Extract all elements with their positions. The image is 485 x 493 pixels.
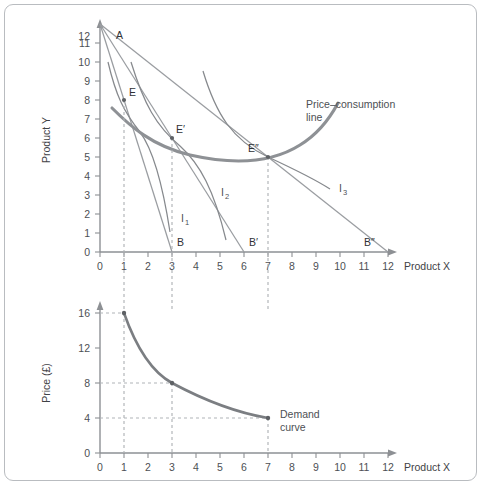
bottom-chart-y-axis-title: Price (£) <box>40 363 52 403</box>
x-tick-label: 11 <box>359 260 370 272</box>
demand-y-tick-label: 16 <box>78 307 90 319</box>
top-chart-group: 0 1 2 3 4 5 6 7 8 9 10 11 12 <box>40 19 450 272</box>
equilibrium-point-E-double-prime <box>266 155 270 159</box>
demand-x-tick-label: 6 <box>241 461 247 473</box>
bottom-chart-y-tick-labels: 0 4 8 12 16 <box>78 307 90 459</box>
demand-point-1-16 <box>122 311 126 315</box>
label-I3-subscript: 3 <box>343 188 347 197</box>
top-chart-x-tick-labels: 0 1 2 3 4 5 6 7 8 9 10 11 12 <box>97 260 394 272</box>
y-tick-label: 0 <box>84 246 90 258</box>
demand-y-tick-label: 4 <box>84 412 90 424</box>
demand-x-tick-label: 8 <box>289 461 295 473</box>
demand-curve-path <box>124 313 268 418</box>
x-tick-label: 4 <box>193 260 199 272</box>
y-tick-label: 5 <box>84 151 90 163</box>
demand-annotation-line1: Demand <box>280 408 320 420</box>
pcc-annotation-line1: Price–consumption <box>306 98 395 110</box>
top-chart-x-axis-title: Product X <box>404 260 450 272</box>
equilibrium-point-E <box>122 98 126 102</box>
label-I2-base: I <box>221 186 224 198</box>
demand-x-tick-label: 3 <box>169 461 175 473</box>
demand-y-axis-arrowhead <box>97 301 104 310</box>
top-chart-y-ticks <box>95 43 100 252</box>
bottom-chart-y-axis <box>97 301 104 453</box>
annotation-demand-curve: Demand curve <box>280 408 320 433</box>
equilibrium-point-E-prime <box>170 136 174 140</box>
demand-y-tick-label: 12 <box>78 342 90 354</box>
indifference-curve-I3 <box>203 71 330 189</box>
y-tick-label: 6 <box>84 132 90 144</box>
label-I2-subscript: 2 <box>225 192 229 201</box>
figure-root: 0 1 2 3 4 5 6 7 8 9 10 11 12 <box>0 0 485 493</box>
demand-x-tick-label: 9 <box>313 461 319 473</box>
x-tick-label: 12 <box>382 260 394 272</box>
bottom-chart-group: 0 4 8 12 16 <box>40 301 450 473</box>
demand-x-tick-label: 10 <box>334 461 346 473</box>
demand-x-tick-label: 11 <box>359 461 370 473</box>
demand-x-tick-label: 5 <box>217 461 223 473</box>
top-chart-y-tick-labels: 0 1 2 3 4 5 6 7 8 9 10 11 12 <box>78 30 90 258</box>
label-point-E-double-prime: E″ <box>248 142 259 154</box>
demand-annotation-line2: curve <box>280 421 306 433</box>
y-tick-label: 12 <box>78 30 90 42</box>
x-tick-label: 2 <box>145 260 151 272</box>
label-point-B-double-prime: B″ <box>364 236 375 248</box>
demand-point-7-4 <box>266 416 270 420</box>
budget-line-AB-double-prime <box>100 24 388 252</box>
label-point-B-prime: B′ <box>249 236 258 248</box>
top-chart-y-axis-title: Product Y <box>40 117 52 163</box>
demand-y-tick-label: 8 <box>84 377 90 389</box>
y-tick-label: 4 <box>84 170 90 182</box>
bottom-chart-x-axis <box>100 450 397 457</box>
bottom-chart-x-axis-title: Product X <box>404 461 450 473</box>
bottom-chart-x-ticks <box>100 453 388 458</box>
label-point-A: A <box>116 29 123 41</box>
x-tick-label: 8 <box>289 260 295 272</box>
demand-y-tick-label: 0 <box>84 447 90 459</box>
demand-x-tick-label: 1 <box>121 461 127 473</box>
demand-x-tick-label: 7 <box>265 461 271 473</box>
annotation-price-consumption-line: Price–consumption line <box>306 98 395 123</box>
bottom-chart-x-tick-labels: 0 1 2 3 4 5 6 7 8 9 10 11 12 <box>97 461 394 473</box>
label-I1-subscript: 1 <box>185 218 189 227</box>
top-chart-x-ticks <box>100 252 388 257</box>
label-point-B: B <box>177 236 184 248</box>
x-tick-label: 6 <box>241 260 247 272</box>
y-tick-label: 8 <box>84 94 90 106</box>
y-tick-label: 2 <box>84 208 90 220</box>
y-tick-label: 3 <box>84 189 90 201</box>
top-chart-x-axis <box>100 249 397 256</box>
y-tick-label: 10 <box>78 56 90 68</box>
budget-line-AB <box>100 24 172 252</box>
label-point-E-prime: E′ <box>176 123 185 135</box>
top-chart-y-axis <box>97 19 104 252</box>
demand-point-3-8 <box>170 381 174 385</box>
bottom-chart-y-ticks <box>95 313 100 453</box>
y-tick-label: 7 <box>84 113 90 125</box>
economics-figure: 0 1 2 3 4 5 6 7 8 9 10 11 12 <box>0 0 485 493</box>
x-tick-label: 10 <box>334 260 346 272</box>
label-curve-I1: I 1 <box>181 212 189 227</box>
x-tick-label: 9 <box>313 260 319 272</box>
demand-x-tick-label: 0 <box>97 461 103 473</box>
demand-x-tick-label: 12 <box>382 461 394 473</box>
x-tick-label: 5 <box>217 260 223 272</box>
label-I3-base: I <box>339 182 342 194</box>
price-consumption-line <box>112 103 338 161</box>
label-point-E: E <box>129 86 136 98</box>
label-curve-I3: I 3 <box>339 182 347 197</box>
x-tick-label: 0 <box>97 260 103 272</box>
demand-x-tick-label: 2 <box>145 461 151 473</box>
label-curve-I2: I 2 <box>221 186 229 201</box>
demand-x-tick-label: 4 <box>193 461 199 473</box>
y-tick-label: 9 <box>84 75 90 87</box>
y-tick-label: 1 <box>84 227 90 239</box>
pcc-annotation-line2: line <box>306 111 323 123</box>
x-axis-arrowhead <box>388 249 397 256</box>
label-I1-base: I <box>181 212 184 224</box>
demand-x-axis-arrowhead <box>388 450 397 457</box>
